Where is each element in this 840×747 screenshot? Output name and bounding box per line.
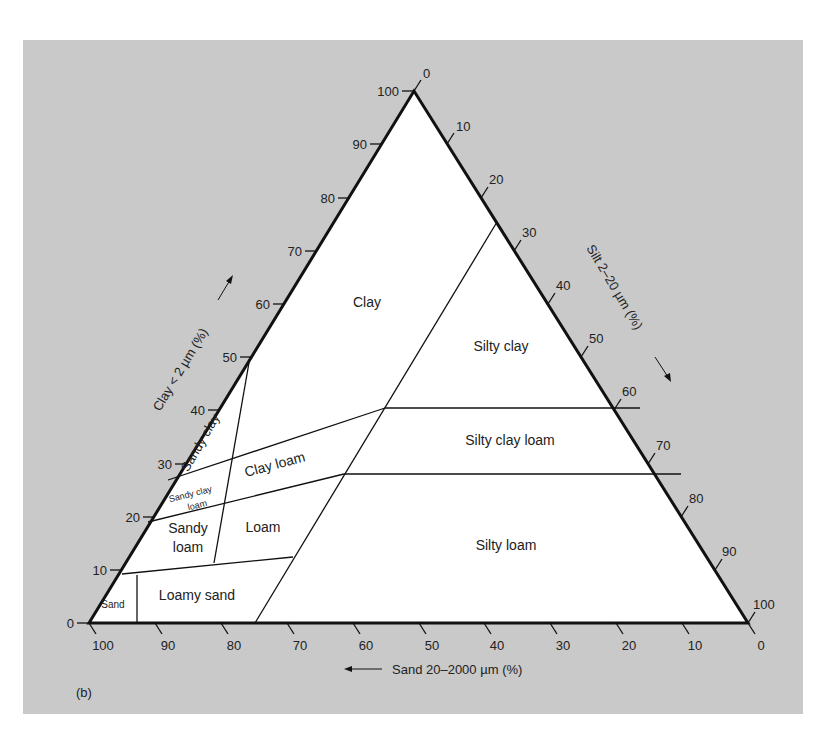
sand-tick-labels: 100 90 80 70 60 50 40 30 20 10 0 <box>92 638 764 653</box>
silt-arrowhead-icon <box>664 373 671 382</box>
svg-text:100: 100 <box>753 597 775 612</box>
svg-text:30: 30 <box>556 638 570 653</box>
svg-text:30: 30 <box>158 457 172 472</box>
svg-text:60: 60 <box>622 384 636 399</box>
svg-text:40: 40 <box>490 638 504 653</box>
figure-label: (b) <box>76 685 92 700</box>
svg-text:40: 40 <box>556 278 570 293</box>
svg-text:Clay: Clay <box>353 294 381 310</box>
svg-text:Loam: Loam <box>245 519 280 535</box>
svg-text:80: 80 <box>227 638 241 653</box>
svg-text:Loamy sand: Loamy sand <box>159 587 235 603</box>
svg-text:80: 80 <box>689 491 703 506</box>
clay-arrow-icon <box>218 280 230 300</box>
svg-text:50: 50 <box>223 350 237 365</box>
svg-text:100: 100 <box>377 84 399 99</box>
svg-text:10: 10 <box>688 638 702 653</box>
svg-text:20: 20 <box>126 510 140 525</box>
svg-text:90: 90 <box>722 544 736 559</box>
svg-text:0: 0 <box>757 638 764 653</box>
svg-text:10: 10 <box>456 119 470 134</box>
clay-axis-title: Clay < 2 µm (%) <box>150 325 211 413</box>
svg-text:20: 20 <box>489 172 503 187</box>
svg-text:Silty loam: Silty loam <box>476 537 537 553</box>
svg-text:70: 70 <box>293 638 307 653</box>
svg-text:60: 60 <box>359 638 373 653</box>
svg-text:0: 0 <box>67 616 74 631</box>
clay-arrowhead-icon <box>226 275 233 284</box>
svg-text:40: 40 <box>191 403 205 418</box>
sand-arrowhead-icon <box>344 666 352 672</box>
silt-axis-title: Silt 2–20 µm (%) <box>583 242 645 332</box>
svg-text:90: 90 <box>161 638 175 653</box>
svg-text:100: 100 <box>92 638 114 653</box>
svg-text:30: 30 <box>522 225 536 240</box>
svg-text:loam: loam <box>173 539 203 555</box>
svg-text:50: 50 <box>589 331 603 346</box>
soil-texture-triangle: 0 10 20 30 40 50 60 70 80 90 100 0 10 20… <box>0 0 840 747</box>
svg-text:0: 0 <box>423 66 430 81</box>
svg-text:60: 60 <box>256 297 270 312</box>
svg-text:Sandy: Sandy <box>168 520 208 536</box>
svg-text:Silty clay loam: Silty clay loam <box>465 432 554 448</box>
svg-text:80: 80 <box>321 191 335 206</box>
svg-text:70: 70 <box>288 244 302 259</box>
svg-text:20: 20 <box>622 638 636 653</box>
svg-text:Sand: Sand <box>101 599 124 610</box>
svg-text:Silty clay: Silty clay <box>473 338 528 354</box>
sand-axis-title: Sand 20–2000 µm (%) <box>392 662 522 677</box>
svg-text:10: 10 <box>93 563 107 578</box>
svg-text:90: 90 <box>353 137 367 152</box>
svg-text:50: 50 <box>425 638 439 653</box>
silt-arrow-icon <box>655 357 668 377</box>
svg-text:70: 70 <box>656 438 670 453</box>
